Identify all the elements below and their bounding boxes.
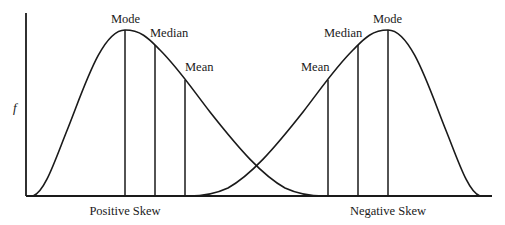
negative-skew-curve <box>189 30 480 196</box>
negative-median-label: Median <box>324 26 363 40</box>
positive-skew-curve <box>33 30 324 196</box>
positive-mode-label: Mode <box>111 12 141 26</box>
negative-mean-label: Mean <box>301 60 330 74</box>
positive-mean-label: Mean <box>185 60 214 74</box>
y-axis-label: f <box>13 100 19 115</box>
skewness-diagram: f Mode Median Mean Mean Median Mode Posi… <box>0 0 505 225</box>
positive-median-label: Median <box>150 26 189 40</box>
negative-skew-caption: Negative Skew <box>350 204 426 218</box>
positive-skew-caption: Positive Skew <box>89 204 160 218</box>
negative-mode-label: Mode <box>373 12 403 26</box>
